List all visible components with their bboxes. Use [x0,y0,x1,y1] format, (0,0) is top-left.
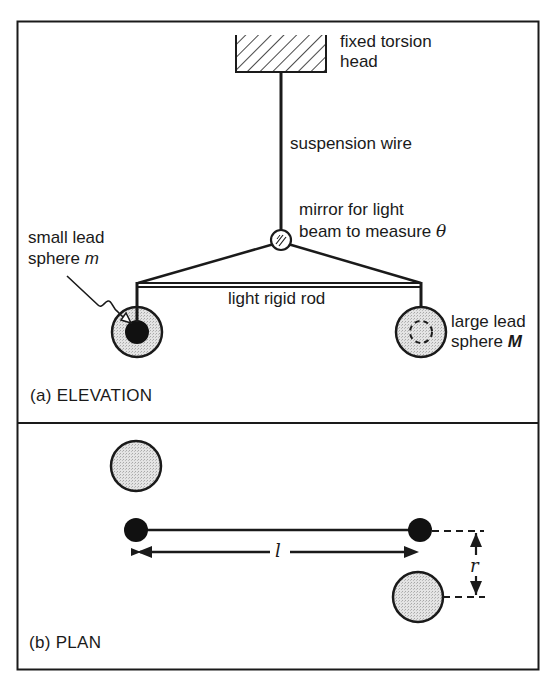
theta-symbol: θ [436,221,446,241]
m-symbol: m [85,249,99,268]
rod-label: light rigid rod [228,289,325,309]
mirror-label-text: beam to measure [299,222,436,241]
small-sphere-label-text: sphere [28,249,85,268]
large-lead-sphere-elevation [396,307,446,357]
large-sphere-label-line1: large lead [451,312,526,332]
torsion-head-label-line2: head [340,52,378,72]
mirror-label-line2: beam to measure θ [299,221,446,242]
mirror [271,230,291,250]
large-sphere-label-text: sphere [451,332,508,351]
suspension-line-left [138,244,274,283]
separation-symbol: r [469,556,480,576]
small-sphere-label-line2: sphere m [28,249,99,269]
elevation-caption: (a) ELEVATION [30,386,152,406]
small-sphere-pointer [67,276,131,323]
light-rigid-rod [136,283,422,287]
small-sphere-plan-left [124,518,148,542]
torsion-head [236,35,326,72]
M-symbol: M [508,332,522,351]
plan-caption: (b) PLAN [29,633,101,653]
length-symbol: l [275,541,281,561]
mirror-label-line1: mirror for light [299,200,404,220]
large-sphere-plan-top [111,441,161,491]
suspension-line-right [288,244,421,283]
suspension-wire-label: suspension wire [290,134,412,154]
large-sphere-plan-bottom [393,572,443,622]
large-sphere-label-line2: sphere M [451,332,522,352]
torsion-head-label-line1: fixed torsion [340,32,432,52]
small-sphere-label-line1: small lead [28,228,105,248]
small-sphere-plan-right [408,518,432,542]
